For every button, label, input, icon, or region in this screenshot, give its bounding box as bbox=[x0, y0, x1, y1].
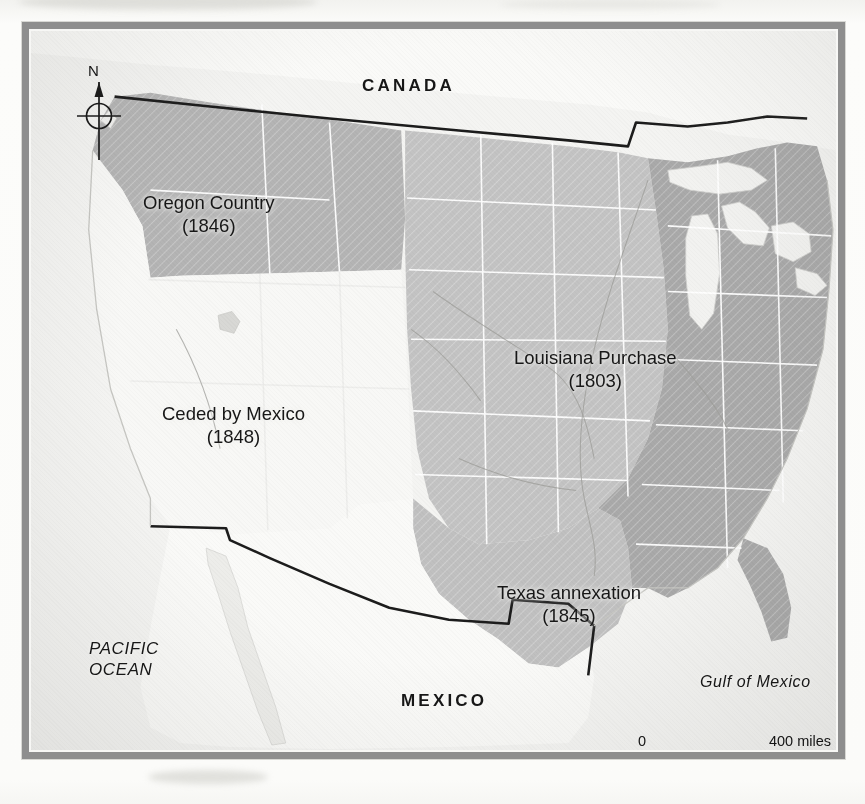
label-ceded-by-mexico-year: (1848) bbox=[162, 425, 305, 448]
label-oregon-country: Oregon Country (1846) bbox=[143, 191, 275, 237]
label-ceded-by-mexico: Ceded by Mexico (1848) bbox=[162, 402, 305, 448]
map-scale-bar: 0 400 miles 0 400 km bbox=[638, 733, 831, 752]
scan-smudge-bottom bbox=[148, 770, 268, 784]
scale-miles-max: 400 miles bbox=[769, 733, 831, 749]
label-oregon-country-name: Oregon Country bbox=[143, 191, 275, 214]
label-pacific-ocean: PACIFIC OCEAN bbox=[89, 638, 159, 680]
label-louisiana-purchase-name: Louisiana Purchase bbox=[514, 346, 677, 369]
compass-rose-icon: N bbox=[71, 64, 127, 166]
label-mexico: MEXICO bbox=[401, 691, 487, 711]
label-ceded-by-mexico-name: Ceded by Mexico bbox=[162, 402, 305, 425]
label-oregon-country-year: (1846) bbox=[143, 214, 275, 237]
label-gulf-of-mexico: Gulf of Mexico bbox=[700, 671, 811, 692]
compass-rose-graphic bbox=[71, 64, 127, 166]
label-pacific-ocean-line2: OCEAN bbox=[89, 659, 159, 680]
label-louisiana-purchase-year: (1803) bbox=[514, 369, 677, 392]
label-louisiana-purchase: Louisiana Purchase (1803) bbox=[514, 346, 677, 392]
label-canada: CANADA bbox=[362, 76, 455, 96]
compass-north-letter: N bbox=[88, 62, 99, 79]
map-inner-border: Oregon Country (1846) Louisiana Purchase… bbox=[29, 29, 838, 752]
scan-smudge-top-right bbox=[500, 0, 720, 9]
label-pacific-ocean-line1: PACIFIC bbox=[89, 638, 159, 659]
label-texas-annexation-year: (1845) bbox=[497, 604, 641, 627]
label-texas-annexation-name: Texas annexation bbox=[497, 581, 641, 604]
label-texas-annexation: Texas annexation (1845) bbox=[497, 581, 641, 627]
map-frame: Oregon Country (1846) Louisiana Purchase… bbox=[22, 22, 845, 759]
scale-miles-zero: 0 bbox=[638, 733, 646, 749]
